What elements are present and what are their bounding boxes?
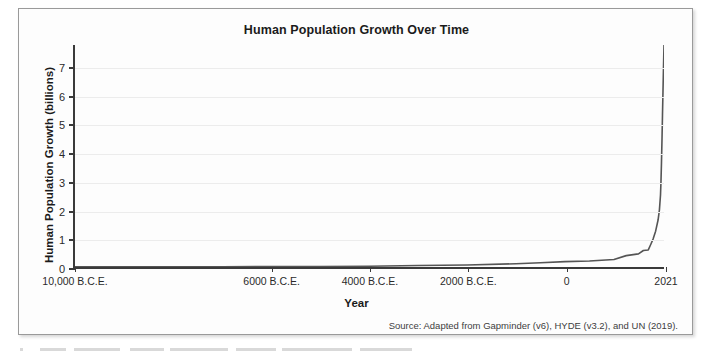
y-tick-label: 5 — [59, 119, 65, 131]
gridline — [75, 68, 664, 69]
y-tick-mark — [69, 239, 75, 241]
y-tick-label: 3 — [59, 177, 65, 189]
y-tick-mark — [69, 182, 75, 184]
y-tick-label: 0 — [59, 263, 65, 275]
gridline — [75, 240, 664, 241]
x-tick-mark — [272, 267, 273, 272]
gridline — [75, 154, 664, 155]
x-axis-title: Year — [19, 297, 694, 309]
y-tick-label: 1 — [59, 234, 65, 246]
clipped-page-text — [18, 345, 448, 357]
y-tick-mark — [69, 67, 75, 69]
x-tick-label: 6000 B.C.E. — [243, 275, 300, 287]
y-tick-mark — [69, 96, 75, 98]
x-tick-mark — [370, 267, 371, 272]
gridline — [75, 212, 664, 213]
y-tick-label: 4 — [59, 148, 65, 160]
x-tick-mark — [666, 267, 667, 272]
x-tick-mark — [75, 267, 76, 272]
gridline — [75, 97, 664, 98]
gridline — [75, 125, 664, 126]
y-tick-mark — [69, 211, 75, 213]
y-tick-mark — [69, 124, 75, 126]
x-tick-label: 2000 B.C.E. — [440, 275, 497, 287]
source-note: Source: Adapted from Gapminder (v6), HYD… — [389, 320, 678, 331]
x-tick-label: 10,000 B.C.E. — [42, 275, 107, 287]
y-tick-label: 2 — [59, 206, 65, 218]
chart-title: Human Population Growth Over Time — [19, 23, 694, 37]
y-axis-title: Human Population Growth (billions) — [41, 53, 57, 277]
x-tick-mark — [567, 267, 568, 272]
x-tick-label: 4000 B.C.E. — [342, 275, 399, 287]
population-curve — [75, 45, 664, 267]
y-tick-label: 6 — [59, 91, 65, 103]
chart-card: Human Population Growth Over Time Human … — [18, 8, 693, 335]
y-axis-title-label: Human Population Growth (billions) — [43, 67, 55, 263]
plot-area: 0123456710,000 B.C.E.6000 B.C.E.4000 B.C… — [73, 45, 664, 269]
x-tick-label: 0 — [564, 275, 570, 287]
plot-inner — [75, 45, 664, 267]
y-tick-label: 7 — [59, 62, 65, 74]
x-tick-mark — [468, 267, 469, 272]
x-tick-label: 2021 — [654, 275, 677, 287]
gridline — [75, 183, 664, 184]
y-tick-mark — [69, 153, 75, 155]
